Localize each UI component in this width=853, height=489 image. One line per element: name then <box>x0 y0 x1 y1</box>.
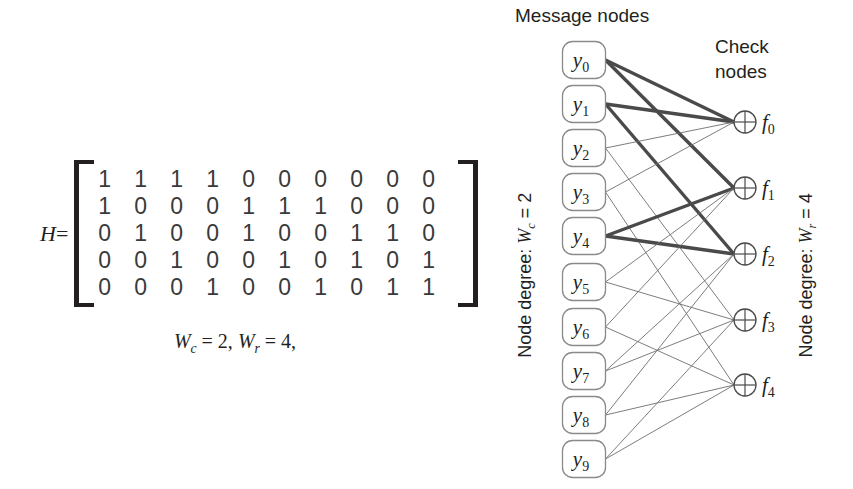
left-degree-prefix: Node degree: <box>515 244 535 358</box>
matrix-cell: 0 <box>276 220 312 247</box>
matrix-cell: 0 <box>312 220 348 247</box>
parity-check-matrix-panel: H= 1111000000100011100001001001100010010… <box>0 0 500 489</box>
message-node-y3[interactable]: y3 <box>563 174 606 211</box>
message-node-y0[interactable]: y0 <box>563 42 606 79</box>
check-node-f3[interactable]: f3 <box>734 308 775 335</box>
right-degree-value: = 4 <box>796 193 816 224</box>
matrix-cell: 0 <box>348 193 384 220</box>
graph-edge <box>606 254 735 371</box>
caption-wr-symbol: W <box>238 330 255 352</box>
caption-wr-value: = 4, <box>265 330 296 352</box>
matrix-cell: 1 <box>240 220 276 247</box>
matrix-cell: 1 <box>168 247 204 274</box>
check-node-label: f4 <box>762 373 775 400</box>
right-degree-subscript: r <box>805 224 819 229</box>
matrix-cell: 1 <box>420 247 456 274</box>
matrix-cell: 0 <box>168 274 204 301</box>
matrix-cell: 0 <box>132 247 168 274</box>
graph-edge <box>606 188 735 236</box>
matrix-cell: 1 <box>312 274 348 301</box>
graph-edge <box>606 104 735 254</box>
right-degree-prefix: Node degree: <box>796 243 816 357</box>
matrix-caption: Wc = 2, Wr = 4, <box>0 330 470 357</box>
tanner-graph-panel: Message nodes Check nodes y0y1y2y3y4y5y6… <box>500 0 853 489</box>
matrix-cell: 0 <box>312 247 348 274</box>
edges-layer <box>606 60 735 459</box>
matrix-cell: 0 <box>168 220 204 247</box>
message-node-y7[interactable]: y7 <box>563 353 606 390</box>
matrix-cell: 0 <box>348 166 384 193</box>
matrix-cell: 0 <box>240 247 276 274</box>
matrix-cell: 0 <box>132 274 168 301</box>
matrix-cell: 0 <box>240 274 276 301</box>
check-node-label: f1 <box>762 176 775 203</box>
matrix-cell: 0 <box>276 274 312 301</box>
message-node-y2[interactable]: y2 <box>563 130 606 167</box>
matrix-cell: 1 <box>132 166 168 193</box>
message-node-y5[interactable]: y5 <box>563 264 606 301</box>
matrix-left-bracket <box>74 160 94 307</box>
message-nodes-layer: y0y1y2y3y4y5y6y7y8y9 <box>563 42 606 478</box>
graph-edge <box>606 320 735 371</box>
matrix-cell: 1 <box>348 247 384 274</box>
matrix-cell: 1 <box>312 193 348 220</box>
matrix-cell: 0 <box>96 220 132 247</box>
matrix-right-bracket <box>458 160 478 307</box>
check-node-f1[interactable]: f1 <box>734 176 775 203</box>
matrix-variable-label: H= <box>40 221 68 247</box>
matrix-cell: 0 <box>348 274 384 301</box>
message-node-y8[interactable]: y8 <box>563 397 606 434</box>
right-node-degree-label: Node degree: Wr = 4 <box>796 160 821 390</box>
matrix-cell: 1 <box>96 193 132 220</box>
left-degree-subscript: c <box>524 223 538 228</box>
caption-wc-subscript: c <box>191 341 197 356</box>
left-node-degree-label: Node degree: Wc = 2 <box>515 160 540 390</box>
check-node-label: f3 <box>762 308 775 335</box>
matrix-cell: 1 <box>204 166 240 193</box>
matrix-cell: 1 <box>96 166 132 193</box>
matrix-cell: 1 <box>384 274 420 301</box>
graph-edge <box>606 188 735 327</box>
message-node-y4[interactable]: y4 <box>563 218 606 255</box>
check-node-f0[interactable]: f0 <box>734 110 775 137</box>
matrix-cell: 0 <box>168 193 204 220</box>
matrix-cell: 0 <box>312 166 348 193</box>
matrix-cell: 0 <box>132 193 168 220</box>
matrix-cell: 0 <box>204 193 240 220</box>
matrix-cell: 1 <box>276 193 312 220</box>
matrix-cell: 1 <box>204 274 240 301</box>
matrix-cell: 0 <box>420 193 456 220</box>
check-node-f2[interactable]: f2 <box>734 242 775 269</box>
check-nodes-layer: f0f1f2f3f4 <box>734 110 775 400</box>
check-node-label: f0 <box>762 110 775 137</box>
matrix-cell: 0 <box>204 220 240 247</box>
left-degree-symbol: W <box>515 229 535 244</box>
graph-edge <box>606 188 735 282</box>
matrix-cell: 0 <box>420 166 456 193</box>
message-node-y9[interactable]: y9 <box>563 441 606 478</box>
matrix-equation: H= 1111000000100011100001001001100010010… <box>40 160 478 307</box>
caption-wc-symbol: W <box>174 330 191 352</box>
matrix-cell: 0 <box>384 247 420 274</box>
matrix-cell: 0 <box>240 166 276 193</box>
matrix-cell: 0 <box>204 247 240 274</box>
caption-wc-value: = 2, <box>202 330 233 352</box>
check-node-label: f2 <box>762 242 775 269</box>
matrix-cell: 0 <box>420 220 456 247</box>
matrix-cell: 0 <box>276 166 312 193</box>
message-node-y1[interactable]: y1 <box>563 86 606 123</box>
matrix-equals-sign: = <box>56 221 68 246</box>
matrix-variable-name: H <box>40 221 56 246</box>
matrix-cell: 1 <box>240 193 276 220</box>
message-node-y6[interactable]: y6 <box>563 309 606 346</box>
left-degree-value: = 2 <box>515 193 535 224</box>
graph-edge <box>606 254 735 415</box>
matrix-cell: 0 <box>96 274 132 301</box>
matrix-cell: 1 <box>168 166 204 193</box>
matrix-cell: 1 <box>420 274 456 301</box>
check-node-f4[interactable]: f4 <box>734 373 775 400</box>
caption-wr-subscript: r <box>255 341 260 356</box>
matrix-cell: 1 <box>384 220 420 247</box>
matrix-cell: 1 <box>276 247 312 274</box>
matrix-cell: 0 <box>384 166 420 193</box>
